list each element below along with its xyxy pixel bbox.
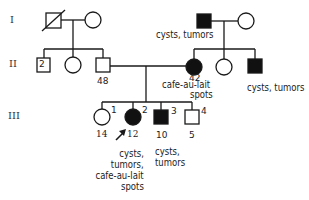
- female-I2: [85, 12, 101, 28]
- age-II3: 48: [97, 76, 108, 86]
- index-III4: 4: [201, 106, 207, 116]
- index-III2: 2: [142, 105, 148, 115]
- generation-label-III: III: [8, 110, 20, 121]
- male-III4: [185, 110, 199, 124]
- female-affected-proband-III2: [125, 109, 141, 125]
- generation-label-I: I: [10, 14, 14, 25]
- female-II5: [216, 59, 232, 75]
- female-III1: [94, 109, 110, 125]
- male-affected-II6: [248, 59, 262, 73]
- age-III4: 5: [189, 130, 195, 140]
- phenotype-note-III2-line4: spots: [121, 181, 144, 192]
- age-III2: 12: [127, 129, 138, 139]
- index-III1: 1: [111, 105, 117, 115]
- proband-arrow-icon: [116, 129, 126, 140]
- sibling-count-II1: 2: [39, 59, 45, 69]
- age-III1: 14: [96, 129, 107, 139]
- phenotype-note-III2-line1: cysts,: [119, 148, 144, 159]
- phenotype-note-III2-line3: cafe-au-lait: [96, 170, 144, 181]
- phenotype-note-I3: cysts, tumors: [156, 29, 213, 40]
- phenotype-note-III3-line1: cysts,: [155, 146, 180, 157]
- phenotype-note-II6: cysts, tumors: [247, 82, 304, 93]
- generation-label-II: II: [9, 58, 17, 69]
- pedigree-chart: [0, 0, 309, 200]
- female-I4: [238, 13, 254, 29]
- male-II3: [96, 58, 110, 72]
- male-affected-I3: [197, 14, 211, 28]
- index-III3: 3: [171, 106, 177, 116]
- female-II2: [65, 57, 81, 73]
- phenotype-note-III3-line2: tumors: [155, 157, 185, 168]
- phenotype-note-III2-line2: tumors,: [111, 159, 144, 170]
- phenotype-note-II4-line2: spots: [190, 89, 213, 100]
- age-III3: 10: [156, 130, 167, 140]
- male-affected-III3: [154, 110, 168, 124]
